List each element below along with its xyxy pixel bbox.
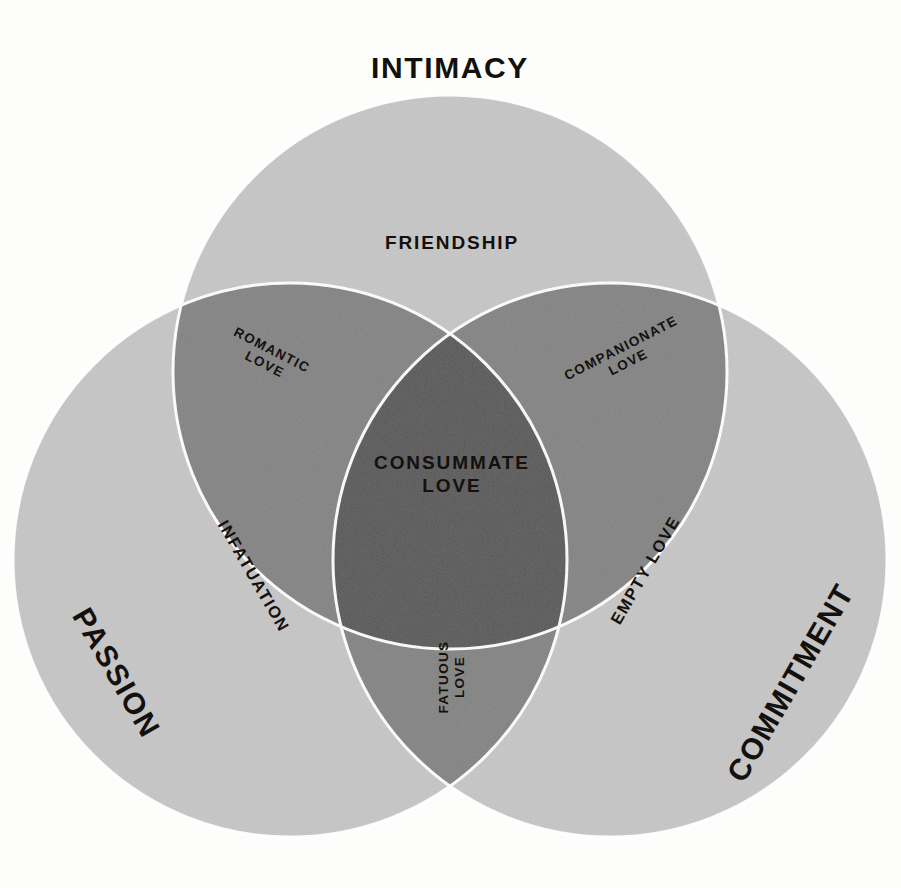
diagram-canvas: INTIMACY PASSION COMMITMENT FRIENDSHIP I… bbox=[0, 0, 901, 888]
venn-diagram bbox=[0, 0, 901, 888]
